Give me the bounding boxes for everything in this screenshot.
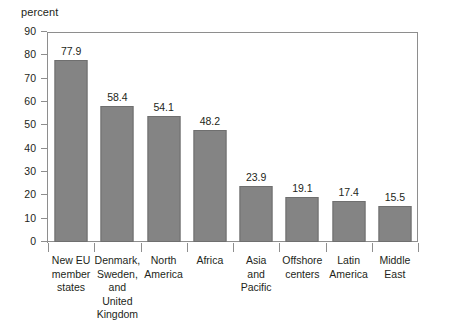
y-axis-tick-mark bbox=[41, 31, 47, 32]
x-axis-category-label-line: America bbox=[141, 268, 187, 282]
bar bbox=[332, 201, 365, 242]
x-axis-tick-mark bbox=[279, 243, 280, 252]
y-axis-tick-mark bbox=[41, 54, 47, 55]
bar-group: 19.1 bbox=[279, 32, 325, 242]
x-axis-category-label: New EUmemberstates bbox=[48, 254, 94, 295]
bar-group: 23.9 bbox=[233, 32, 279, 242]
x-axis-category-label: Offshorecenters bbox=[279, 254, 325, 281]
x-axis-category-label-line: Kingdom bbox=[94, 308, 140, 322]
y-axis-tick-label: 20 bbox=[24, 188, 36, 201]
y-axis-tick-mark bbox=[41, 194, 47, 195]
bar bbox=[240, 186, 273, 242]
x-axis-category-label-line: centers bbox=[279, 268, 325, 282]
bar-group: 77.9 bbox=[48, 32, 94, 242]
x-axis-tick-mark bbox=[187, 243, 188, 252]
bars-layer: 77.958.454.148.223.919.117.415.5 bbox=[48, 32, 418, 242]
bar-group: 58.4 bbox=[94, 32, 140, 242]
y-axis-tick-label: 10 bbox=[24, 212, 36, 225]
y-axis-tick-label: 60 bbox=[24, 95, 36, 108]
x-axis-tick-mark bbox=[94, 243, 95, 252]
x-axis-category-label-line: United bbox=[94, 295, 140, 309]
bar-group: 15.5 bbox=[372, 32, 418, 242]
x-axis-category-label-line: North bbox=[141, 254, 187, 268]
bar-value-label: 23.9 bbox=[246, 171, 266, 183]
x-axis-category-label-line: Africa bbox=[187, 254, 233, 268]
bar-value-label: 58.4 bbox=[107, 91, 127, 103]
y-axis-tick-label: 40 bbox=[24, 142, 36, 155]
bar-value-label: 54.1 bbox=[153, 101, 173, 113]
x-axis-category-label: MiddleEast bbox=[372, 254, 418, 281]
x-axis-category-label-line: Offshore bbox=[279, 254, 325, 268]
x-axis-tick-mark bbox=[48, 243, 49, 252]
x-axis-category-label: Africa bbox=[187, 254, 233, 268]
x-axis-tick-mark bbox=[233, 243, 234, 252]
x-axis-category-label-line: states bbox=[48, 281, 94, 295]
x-axis-tick-mark bbox=[141, 243, 142, 252]
x-axis-tick-mark bbox=[372, 243, 373, 252]
y-axis-tick-mark bbox=[41, 171, 47, 172]
x-axis-category-label-line: Middle bbox=[372, 254, 418, 268]
x-axis-category-label: LatinAmerica bbox=[326, 254, 372, 281]
y-axis-tick-mark bbox=[41, 124, 47, 125]
y-axis-tick-mark bbox=[41, 218, 47, 219]
y-axis-tick-label: 90 bbox=[24, 25, 36, 38]
x-axis-labels: New EUmemberstatesDenmark,Sweden,andUnit… bbox=[48, 254, 418, 324]
x-axis-category-label-line: Pacific bbox=[233, 281, 279, 295]
bar-group: 17.4 bbox=[326, 32, 372, 242]
bar-value-label: 15.5 bbox=[385, 191, 405, 203]
bar-value-label: 48.2 bbox=[200, 115, 220, 127]
x-axis-category-label-line: and bbox=[94, 281, 140, 295]
x-axis-category-label: NorthAmerica bbox=[141, 254, 187, 281]
x-axis-category-label: AsiaandPacific bbox=[233, 254, 279, 295]
x-axis-category-label-line: Sweden, bbox=[94, 268, 140, 282]
x-axis-category-label-line: member bbox=[48, 268, 94, 282]
y-axis-tick-mark bbox=[41, 101, 47, 102]
y-axis-tick-label: 0 bbox=[30, 235, 36, 248]
x-axis-category-label-line: Latin bbox=[326, 254, 372, 268]
y-axis-tick-label: 70 bbox=[24, 72, 36, 85]
y-axis-tick-mark bbox=[41, 148, 47, 149]
bar bbox=[193, 130, 226, 242]
bar-group: 54.1 bbox=[141, 32, 187, 242]
x-axis-category-label: Denmark,Sweden,andUnitedKingdom bbox=[94, 254, 140, 322]
bar-value-label: 19.1 bbox=[292, 182, 312, 194]
x-axis-category-label-line: East bbox=[372, 268, 418, 282]
y-axis-tick-label: 30 bbox=[24, 165, 36, 178]
y-axis-tick-mark bbox=[41, 78, 47, 79]
bar bbox=[55, 60, 88, 242]
x-axis-category-label-line: New EU bbox=[48, 254, 94, 268]
y-axis-tick-mark bbox=[41, 241, 47, 242]
x-axis-tick-mark bbox=[418, 243, 419, 252]
bar bbox=[286, 197, 319, 242]
x-axis-category-label-line: Asia bbox=[233, 254, 279, 268]
x-axis-tick-mark bbox=[326, 243, 327, 252]
x-axis-category-label-line: and bbox=[233, 268, 279, 282]
bar bbox=[147, 116, 180, 242]
bar-chart: percent 9080706050403020100 77.958.454.1… bbox=[0, 0, 450, 330]
bar-value-label: 17.4 bbox=[338, 186, 358, 198]
x-axis-category-label-line: America bbox=[326, 268, 372, 282]
bar-group: 48.2 bbox=[187, 32, 233, 242]
bar bbox=[378, 206, 411, 242]
x-axis-category-label-line: Denmark, bbox=[94, 254, 140, 268]
y-axis-tick-label: 80 bbox=[24, 48, 36, 61]
bar-value-label: 77.9 bbox=[61, 45, 81, 57]
y-axis-unit-label: percent bbox=[21, 6, 58, 19]
y-axis-tick-label: 50 bbox=[24, 118, 36, 131]
bar bbox=[101, 106, 134, 242]
